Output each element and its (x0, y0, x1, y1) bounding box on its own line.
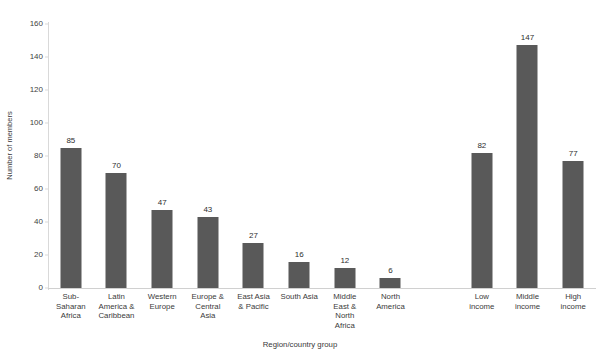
x-axis-label-line: North (322, 311, 368, 321)
bar[interactable] (243, 243, 264, 288)
x-axis-title: Region/country group (0, 340, 600, 349)
bar-slot: 77 (550, 24, 596, 288)
y-axis-title-text: Number of members (5, 111, 14, 179)
x-axis-category-label: Europe &CentralAsia (185, 292, 231, 321)
bar-slot: 47 (139, 24, 185, 288)
bar[interactable] (334, 268, 355, 288)
bar-slot: 70 (94, 24, 140, 288)
x-axis-label-line: Western (139, 292, 185, 302)
bar-value-label: 47 (158, 199, 167, 207)
x-axis-category-label: WesternEurope (139, 292, 185, 311)
x-axis-label-line: income (505, 302, 551, 312)
x-axis-label-line: East & (322, 302, 368, 312)
x-axis-category-label: NorthAmerica (368, 292, 414, 311)
bar[interactable] (471, 153, 492, 288)
x-axis-label-line: Africa (322, 321, 368, 331)
bar-slot-empty (413, 24, 459, 288)
bar-value-label: 27 (249, 232, 258, 240)
bar-slot: 85 (48, 24, 94, 288)
x-axis-label-line: Europe (139, 302, 185, 312)
x-axis-label-line: income (459, 302, 505, 312)
bar-value-label: 43 (203, 206, 212, 214)
bar-value-label: 82 (477, 142, 486, 150)
x-axis-label-line: income (550, 302, 596, 312)
x-axis-label-line: America (368, 302, 414, 312)
x-axis-label-line: & Pacific (231, 302, 277, 312)
bar-series: 8570474327161268214777 (48, 24, 596, 288)
bar[interactable] (197, 217, 218, 288)
bar-value-label: 85 (66, 137, 75, 145)
x-axis-label-line: Latin (94, 292, 140, 302)
x-axis-label-line: Caribbean (94, 311, 140, 321)
x-axis-category-label: East Asia& Pacific (231, 292, 277, 311)
bar-slot: 12 (322, 24, 368, 288)
x-axis-category-label: Middleincome (505, 292, 551, 311)
bar-slot: 16 (276, 24, 322, 288)
bar-slot: 27 (231, 24, 277, 288)
bar-value-label: 12 (340, 257, 349, 265)
bar[interactable] (563, 161, 584, 288)
x-axis-label-line: Saharan (48, 302, 94, 312)
x-axis-label-line: Africa (48, 311, 94, 321)
x-axis-label-line: East Asia (231, 292, 277, 302)
bar-slot: 147 (505, 24, 551, 288)
x-axis-category-label: LatinAmerica &Caribbean (94, 292, 140, 321)
bar[interactable] (289, 262, 310, 288)
x-axis-label-line: America & (94, 302, 140, 312)
bar[interactable] (380, 278, 401, 288)
x-axis-label-line: Europe & (185, 292, 231, 302)
bar-slot: 43 (185, 24, 231, 288)
bar[interactable] (517, 45, 538, 288)
x-axis-label-line: South Asia (276, 292, 322, 302)
bar-value-label: 147 (521, 34, 534, 42)
x-axis-label-line: Middle (322, 292, 368, 302)
plot-area: 020406080100120140160 857047432716126821… (48, 24, 596, 288)
bar-value-label: 70 (112, 162, 121, 170)
bar-value-label: 6 (388, 267, 392, 275)
x-axis-label-line: Low (459, 292, 505, 302)
bar[interactable] (106, 173, 127, 289)
x-axis-label-line: Middle (505, 292, 551, 302)
x-axis-category-label: Lowincome (459, 292, 505, 311)
y-axis-title: Number of members (2, 0, 16, 290)
x-axis-label-line: Asia (185, 311, 231, 321)
x-axis-label-line: Sub- (48, 292, 94, 302)
x-axis-label-line: Central (185, 302, 231, 312)
bar[interactable] (60, 148, 81, 288)
x-axis-label-line: North (368, 292, 414, 302)
bar-value-label: 16 (295, 251, 304, 259)
bar-value-label: 77 (569, 150, 578, 158)
x-axis-category-label: MiddleEast &NorthAfrica (322, 292, 368, 330)
x-axis-category-label: Sub-SaharanAfrica (48, 292, 94, 321)
bar-chart: Number of members 020406080100120140160 … (0, 0, 600, 355)
x-axis-label-line: High (550, 292, 596, 302)
x-axis-category-label: South Asia (276, 292, 322, 302)
bar-slot: 82 (459, 24, 505, 288)
x-axis-category-label: Highincome (550, 292, 596, 311)
x-axis-line (48, 288, 596, 289)
bar-slot: 6 (368, 24, 414, 288)
x-axis-category-labels: Sub-SaharanAfricaLatinAmerica &Caribbean… (48, 292, 596, 340)
bar[interactable] (152, 210, 173, 288)
chart-title-clipped (0, 0, 600, 6)
